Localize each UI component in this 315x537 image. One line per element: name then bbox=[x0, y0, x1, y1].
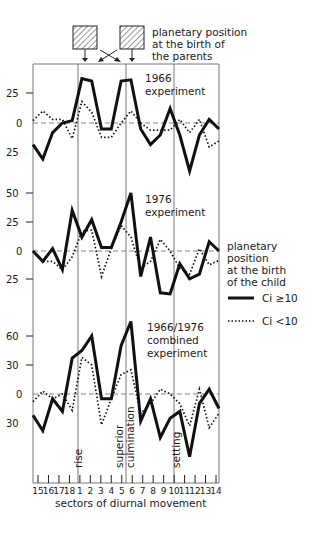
panel-title-1976: experiment bbox=[145, 206, 205, 218]
parents-label: the parents bbox=[152, 50, 212, 62]
svg-text:30: 30 bbox=[6, 360, 19, 371]
parent-box-left bbox=[73, 26, 97, 49]
annotation-culmination: culmination bbox=[124, 406, 136, 468]
panel-title-combined: experiment bbox=[147, 347, 207, 359]
chart: planetary position at the birth of the p… bbox=[0, 0, 315, 537]
parents-label: planetary position bbox=[152, 26, 247, 38]
parents-diagram: planetary position at the birth of the p… bbox=[73, 26, 247, 62]
svg-text:25: 25 bbox=[6, 147, 19, 158]
arrow-down-icon bbox=[82, 58, 88, 62]
x-tick-label: 7 bbox=[140, 486, 146, 496]
x-tick-label: 6 bbox=[129, 486, 135, 496]
x-tick-label: 2 bbox=[87, 486, 93, 496]
svg-text:Ci <10: Ci <10 bbox=[262, 315, 298, 327]
legend: planetary position at the birth of the c… bbox=[227, 240, 298, 327]
panel-title-1976: 1976 bbox=[145, 193, 172, 205]
x-axis: 151617181234567891011121314 bbox=[32, 475, 222, 496]
x-tick-label: 9 bbox=[161, 486, 167, 496]
svg-text:position: position bbox=[227, 252, 269, 264]
parent-box-right bbox=[120, 26, 144, 49]
svg-text:Ci ≥10: Ci ≥10 bbox=[262, 292, 298, 304]
svg-text:25: 25 bbox=[6, 88, 19, 99]
panel-title-combined: 1966/1976 bbox=[147, 321, 204, 333]
x-tick-label: 8 bbox=[150, 486, 156, 496]
x-tick-label: 3 bbox=[98, 486, 104, 496]
svg-text:25: 25 bbox=[6, 274, 19, 285]
x-tick-label: 4 bbox=[108, 486, 114, 496]
svg-text:of the child: of the child bbox=[227, 276, 286, 288]
panel-title-1966: experiment bbox=[145, 85, 205, 97]
svg-text:0: 0 bbox=[16, 246, 22, 257]
panel-title-1966: 1966 bbox=[145, 72, 172, 84]
x-tick-label: 1 bbox=[77, 486, 83, 496]
arrow-down-icon bbox=[129, 58, 135, 62]
x-tick-label: 14 bbox=[210, 486, 222, 496]
x-axis-title: sectors of diurnal movement bbox=[55, 497, 206, 509]
y-ticks: 25 0 25 50 25 0 25 60 30 0 30 bbox=[6, 88, 33, 429]
parents-label: at the birth of bbox=[152, 38, 225, 50]
x-tick-label: 18 bbox=[64, 486, 76, 496]
arrow-cross-icon bbox=[114, 57, 121, 62]
svg-text:at the birth: at the birth bbox=[227, 264, 286, 276]
svg-text:60: 60 bbox=[6, 331, 19, 342]
svg-text:0: 0 bbox=[16, 118, 22, 129]
x-tick-label: 5 bbox=[119, 486, 125, 496]
svg-text:planetary: planetary bbox=[227, 240, 277, 252]
svg-text:30: 30 bbox=[6, 418, 19, 429]
svg-text:50: 50 bbox=[6, 188, 19, 199]
svg-text:25: 25 bbox=[6, 217, 19, 228]
arrow-cross-icon bbox=[98, 57, 104, 62]
annotation-rise: rise bbox=[72, 449, 84, 468]
panel-title-combined: combined bbox=[147, 334, 199, 346]
annotation-setting: setting bbox=[170, 432, 182, 468]
svg-text:0: 0 bbox=[16, 389, 22, 400]
